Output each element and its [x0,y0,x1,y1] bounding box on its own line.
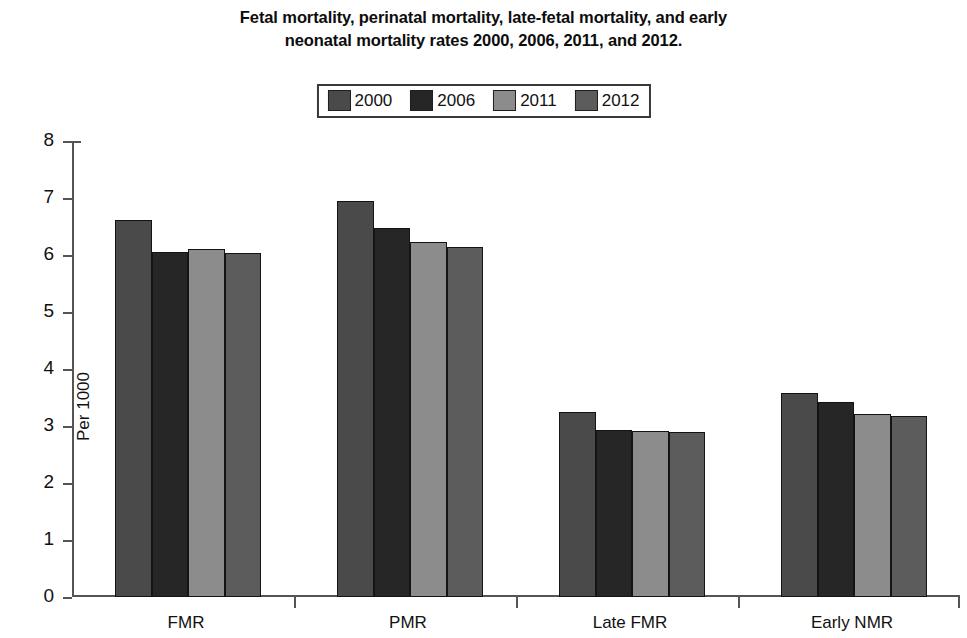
y-tick-mark [63,369,72,371]
legend-label: 2006 [437,91,475,110]
x-axis-separator [294,597,296,608]
bar-fmr-2012 [225,253,262,597]
y-tick-mark [63,198,72,200]
legend-item-2012: 2012 [575,90,640,111]
x-axis-label-early-nmr: Early NMR [811,613,893,633]
bar-late-fmr-2000 [559,412,596,597]
y-tick-mark [63,312,72,314]
x-axis-label-late-fmr: Late FMR [593,613,668,633]
bar-early-nmr-2012 [891,416,928,597]
x-axis-separator [958,597,960,608]
y-tick-label: 8 [24,129,54,151]
x-axis-categories: FMRPMRLate FMREarly NMR [72,597,960,638]
y-tick-mark [63,540,72,542]
legend-label: 2000 [354,91,392,110]
legend-swatch-icon [493,90,516,111]
plot-area: Per 1000 012345678 [72,141,960,597]
bar-pmr-2012 [447,247,484,597]
bar-late-fmr-2012 [669,432,706,597]
x-axis-separator [738,597,740,608]
page-title: Fetal mortality, perinatal mortality, la… [0,6,967,52]
y-tick-label: 5 [24,300,54,322]
legend-item-2006: 2006 [410,90,475,111]
y-tick-label: 6 [24,243,54,265]
legend-swatch-icon [575,90,598,111]
legend-label: 2012 [602,91,640,110]
y-tick-mark [63,255,72,257]
chart-title-line-1: Fetal mortality, perinatal mortality, la… [0,6,967,29]
bar-pmr-2006 [374,228,411,597]
bar-early-nmr-2011 [854,414,891,597]
bar-fmr-2006 [152,252,189,597]
bar-late-fmr-2006 [596,430,633,597]
bar-fmr-2000 [115,220,152,597]
bar-pmr-2000 [337,201,374,597]
legend-swatch-icon [410,90,433,111]
y-tick-label: 2 [24,471,54,493]
x-axis-label-pmr: PMR [389,613,427,633]
legend-label: 2011 [520,91,557,110]
chart-legend: 2000200620112012 [316,84,650,118]
y-tick-label: 7 [24,186,54,208]
bars-layer [74,141,960,597]
x-axis-separator [516,597,518,608]
bar-pmr-2011 [410,242,447,597]
bar-early-nmr-2006 [818,402,855,598]
legend-item-2011: 2011 [493,90,557,111]
bar-early-nmr-2000 [781,393,818,597]
bar-fmr-2011 [188,249,225,597]
y-tick-mark [63,426,72,428]
y-tick-mark [63,141,72,143]
chart-title-line-2: neonatal mortality rates 2000, 2006, 201… [0,29,967,52]
y-tick-label: 1 [24,528,54,550]
legend-swatch-icon [327,90,350,111]
y-tick-label: 4 [24,357,54,379]
legend-item-2000: 2000 [327,90,392,111]
y-tick-mark [63,597,72,599]
x-axis-label-fmr: FMR [168,613,205,633]
y-tick-label: 3 [24,414,54,436]
bar-late-fmr-2011 [632,431,669,597]
y-tick-label: 0 [24,585,54,607]
y-tick-mark [63,483,72,485]
